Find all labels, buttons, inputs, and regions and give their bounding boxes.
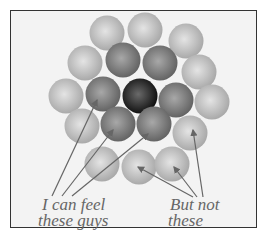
sphere-light [173, 116, 208, 151]
sphere-mid [86, 77, 121, 112]
sphere-light [68, 46, 103, 81]
sphere-mid [101, 107, 136, 142]
sphere-mid [143, 46, 178, 81]
sphere-cluster [49, 13, 230, 185]
sphere-light [49, 79, 84, 114]
label-right-line2: these [168, 211, 203, 230]
sphere-light [128, 13, 163, 48]
sphere-light [182, 55, 217, 90]
sphere-light [195, 85, 230, 120]
sphere-mid [106, 43, 141, 78]
sphere-mid [137, 107, 172, 142]
sphere-light [85, 147, 120, 182]
sphere-light [65, 109, 100, 144]
sphere-diagram: I can feel these guys But not these [0, 0, 265, 237]
label-left-line2: these guys [38, 211, 109, 230]
sphere-light [155, 147, 190, 182]
